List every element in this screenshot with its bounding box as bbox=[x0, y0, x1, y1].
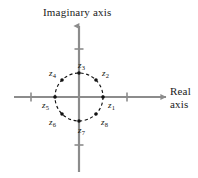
root-label-z5: z5 bbox=[42, 100, 49, 110]
root-label-z2: z2 bbox=[102, 68, 109, 78]
plot-canvas bbox=[0, 0, 198, 178]
real-axis-group bbox=[14, 93, 166, 102]
root-label-z3: z3 bbox=[78, 60, 85, 70]
root-point-z4 bbox=[60, 78, 64, 82]
imaginary-axis-label: Imaginary axis bbox=[43, 6, 111, 18]
root-point-z3 bbox=[77, 71, 81, 75]
imaginary-axis-group bbox=[75, 26, 84, 172]
complex-plane-figure: Imaginary axis Real axis z1z2z3z4z5z6z7z… bbox=[0, 0, 198, 178]
root-point-z6 bbox=[60, 112, 64, 116]
real-axis-label-line1: Real bbox=[170, 85, 191, 98]
root-label-z1: z1 bbox=[108, 100, 115, 110]
root-label-z6: z6 bbox=[49, 117, 56, 127]
root-label-z4: z4 bbox=[49, 68, 56, 78]
root-point-z8 bbox=[94, 112, 98, 116]
root-point-z7 bbox=[77, 119, 81, 123]
root-point-z2 bbox=[94, 78, 98, 82]
root-label-z7: z7 bbox=[78, 125, 85, 135]
real-axis-label: Real axis bbox=[170, 85, 191, 111]
root-point-z1 bbox=[101, 95, 105, 99]
real-axis-label-line2: axis bbox=[170, 98, 191, 111]
root-point-z5 bbox=[53, 95, 57, 99]
root-label-z8: z8 bbox=[101, 117, 108, 127]
